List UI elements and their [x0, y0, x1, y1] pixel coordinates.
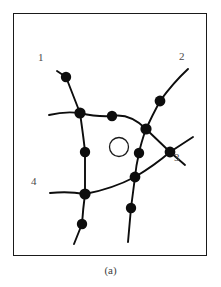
endpoint-label-4: 4 [31, 176, 37, 187]
crossing-node-n10 [79, 188, 90, 199]
strand-strand-1 [57, 71, 85, 244]
crossing-node-n8 [80, 147, 90, 157]
crossing-node-n1 [61, 72, 71, 82]
crossing-nodes-group [61, 72, 176, 229]
strand-arc-bottom [50, 152, 170, 194]
center-open-circle [110, 138, 129, 157]
endpoint-label-3: 3 [174, 152, 180, 163]
crossing-node-n12 [77, 219, 87, 229]
crossing-node-n4 [155, 96, 166, 107]
crossing-node-n11 [126, 203, 136, 213]
strand-arc-top [49, 112, 146, 129]
figure-container: 1 2 3 4 (a) [0, 0, 221, 287]
crossing-node-n3 [107, 111, 117, 121]
figure-caption: (a) [0, 264, 221, 276]
endpoint-label-1: 1 [38, 52, 44, 63]
crossing-node-n6 [134, 148, 144, 158]
crossing-node-n5 [140, 123, 151, 134]
crossing-node-n2 [74, 107, 85, 118]
endpoint-label-2: 2 [179, 51, 185, 62]
center-open-circle-group [110, 138, 129, 157]
crossing-node-n9 [130, 172, 141, 183]
